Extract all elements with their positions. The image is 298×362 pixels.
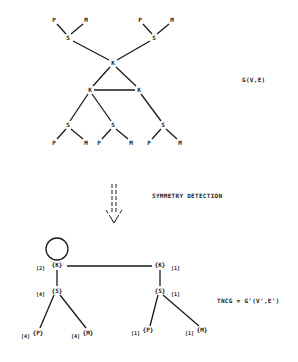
node-k-class: {K} [155,261,166,268]
symmetry-detection-label: SYMMETRY DETECTION [152,192,223,199]
node-m-class: {M} [197,326,208,333]
node-k: K [111,59,115,66]
node-s: S [161,121,165,128]
node-m: M [84,16,88,23]
node-m: M [178,139,182,146]
node-m: M [129,139,133,146]
multiplicity-label: [4] [71,333,80,339]
node-p: P [52,139,56,146]
multiplicity-label: [2] [36,265,45,271]
node-p: P [147,139,151,146]
node-k-class: {K} [52,261,63,268]
multiplicity-label: [4] [36,291,45,297]
node-s: S [111,121,115,128]
transform-arrow-icon [106,184,122,223]
self-loop [46,238,68,260]
quotient-graph-edges [40,238,199,328]
node-s: S [66,34,70,41]
node-k: K [88,86,92,93]
node-p: P [138,16,142,23]
node-s: S [66,121,70,128]
diagram-canvas: P M S P M S K K K S S S P M P M P M G(V,… [0,0,298,362]
original-graph-edges [57,24,177,139]
node-m: M [84,139,88,146]
multiplicity-label: [1] [171,291,180,297]
node-m: M [170,16,174,23]
node-s-class: {S} [52,287,63,294]
node-s-class: {S} [155,287,166,294]
multiplicity-label: [4] [21,333,30,339]
quotient-graph-nodes: [2] {K} [4] {S} [4] {P} [4] {M} {K} [1] … [21,261,208,339]
original-graph-nodes: P M S P M S K K K S S S P M P M P M [52,16,182,146]
node-p-class: {P} [143,326,154,333]
original-graph-label: G(V,E) [242,76,265,83]
node-p-class: {P} [33,329,44,336]
node-s: S [152,34,156,41]
quotient-graph-label: TNCG = G'(V',E') [217,297,280,304]
node-k: K [137,86,141,93]
node-p: P [52,16,56,23]
multiplicity-label: [1] [131,330,140,336]
node-p: P [97,139,101,146]
node-m-class: {M} [83,329,94,336]
multiplicity-label: [1] [171,265,180,271]
multiplicity-label: [1] [185,330,194,336]
